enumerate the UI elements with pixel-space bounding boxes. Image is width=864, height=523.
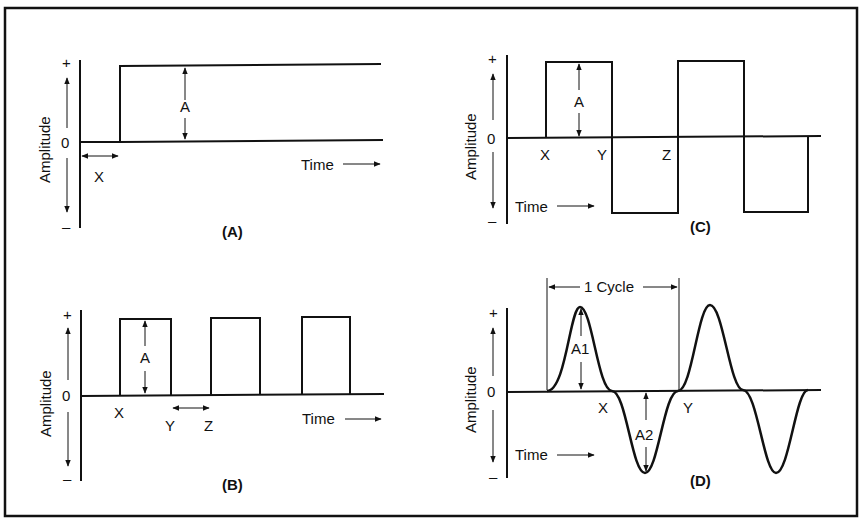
zero-line [507,136,821,138]
zero-label: 0 [487,383,495,400]
marker-y: Y [597,146,607,163]
sine-waveform [547,305,808,473]
plus-label: + [62,54,71,71]
panel-d: + 0 – Amplitude 1 Cycle A1 A2 X Y Time (… [462,278,821,489]
marker-x: X [540,146,550,163]
caption-d: (D) [690,472,711,489]
amplitude-label: A [574,93,584,110]
peak-positive-label: A1 [571,340,589,357]
delay-label: X [94,168,104,185]
amplitude-label: A [180,98,190,115]
time-label: Time [301,156,334,173]
time-label: Time [515,446,548,463]
panel-c: + 0 – Amplitude A X Y Z Time (C) [462,50,821,235]
waveform-figure: + 0 – Amplitude A X Time (A) + 0 – Ampli… [0,0,864,523]
pulse-3 [302,317,350,394]
caption-a: (A) [222,223,243,240]
zero-label: 0 [62,387,70,404]
y-axis-label: Amplitude [462,113,479,180]
cycle-label: 1 Cycle [584,278,634,295]
plus-label: + [488,50,497,67]
marker-y: Y [165,417,175,434]
zero-line [507,390,821,392]
minus-label: – [489,468,498,485]
step-waveform [80,64,381,142]
panel-b: + 0 – Amplitude A X Y Z Time (B) [37,306,384,493]
figure-border [5,8,857,516]
plus-label: + [489,304,498,321]
y-axis-label: Amplitude [36,116,53,183]
caption-c: (C) [690,218,711,235]
marker-z: Z [662,146,671,163]
time-label: Time [515,198,548,215]
marker-x: X [114,404,124,421]
panel-a: + 0 – Amplitude A X Time (A) [36,54,383,240]
minus-label: – [62,218,71,235]
amplitude-label: A [140,349,150,366]
marker-x: X [598,399,608,416]
zero-line [120,140,383,142]
minus-label: – [63,470,72,487]
zero-line [81,394,384,396]
y-axis-label: Amplitude [462,366,479,433]
marker-y: Y [683,399,693,416]
pulse-2 [211,318,260,395]
marker-z: Z [204,417,213,434]
caption-b: (B) [222,476,243,493]
peak-negative-label: A2 [635,426,653,443]
y-axis-label: Amplitude [37,370,54,437]
plus-label: + [63,306,72,323]
zero-label: 0 [61,134,69,151]
minus-label: – [488,212,497,229]
zero-label: 0 [487,130,495,147]
time-label: Time [302,410,335,427]
